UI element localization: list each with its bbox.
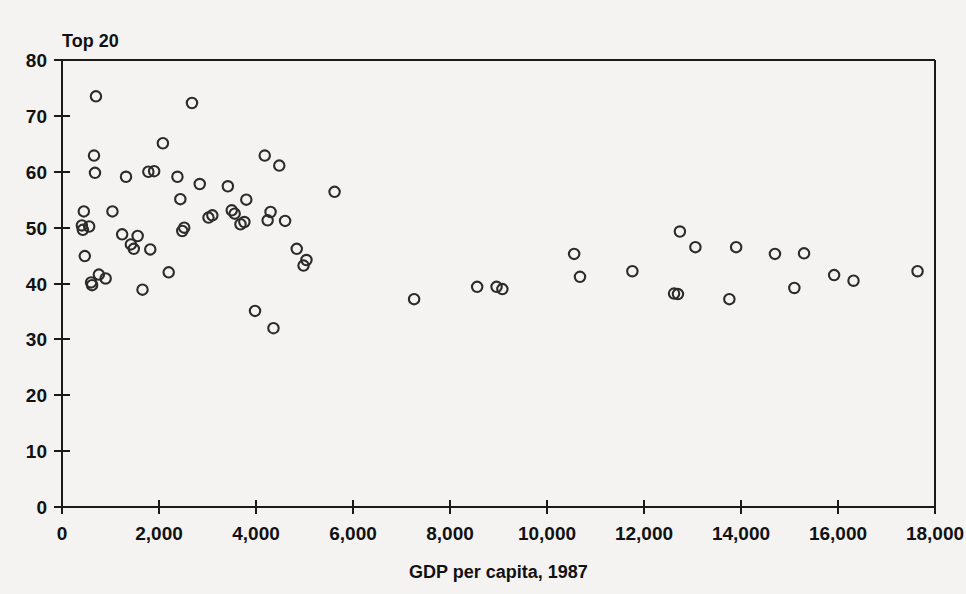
x-tick-label: 0 bbox=[57, 523, 68, 544]
data-point bbox=[799, 248, 809, 258]
data-point bbox=[724, 294, 734, 304]
x-tick-label: 16,000 bbox=[809, 523, 867, 544]
scatter-plot: 02,0004,0006,0008,00010,00012,00014,0001… bbox=[0, 0, 966, 594]
data-point bbox=[770, 249, 780, 259]
data-point bbox=[89, 150, 99, 160]
data-point bbox=[912, 266, 922, 276]
data-point bbox=[164, 267, 174, 277]
x-axis-title: GDP per capita, 1987 bbox=[409, 562, 588, 582]
data-point bbox=[241, 194, 251, 204]
data-point bbox=[260, 150, 270, 160]
data-point bbox=[175, 194, 185, 204]
x-tick-label: 18,000 bbox=[906, 523, 964, 544]
data-point bbox=[280, 216, 290, 226]
data-point bbox=[223, 181, 233, 191]
data-point bbox=[90, 168, 100, 178]
y-tick-label: 40 bbox=[26, 274, 47, 295]
data-point bbox=[250, 306, 260, 316]
x-tick-label: 6,000 bbox=[329, 523, 377, 544]
y-tick-label: 20 bbox=[26, 385, 47, 406]
x-tick-label: 10,000 bbox=[518, 523, 576, 544]
data-point bbox=[472, 282, 482, 292]
x-tick-label: 12,000 bbox=[615, 523, 673, 544]
data-point bbox=[179, 222, 189, 232]
data-point bbox=[91, 91, 101, 101]
plot-frame bbox=[62, 60, 935, 507]
x-tick-label: 2,000 bbox=[135, 523, 183, 544]
data-points bbox=[77, 91, 923, 333]
y-tick-label: 80 bbox=[26, 50, 47, 71]
data-point bbox=[789, 283, 799, 293]
x-tick-label: 4,000 bbox=[232, 523, 280, 544]
data-point bbox=[829, 270, 839, 280]
data-point bbox=[731, 242, 741, 252]
y-tick-label: 10 bbox=[26, 441, 47, 462]
data-point bbox=[268, 323, 278, 333]
x-tick-label: 8,000 bbox=[426, 523, 474, 544]
y-tick-label: 50 bbox=[26, 218, 47, 239]
data-point bbox=[274, 160, 284, 170]
data-point bbox=[848, 276, 858, 286]
data-point bbox=[172, 172, 182, 182]
data-point bbox=[195, 179, 205, 189]
data-point bbox=[627, 266, 637, 276]
data-point bbox=[107, 206, 117, 216]
chart-title: Top 20 bbox=[62, 31, 119, 51]
x-tick-label: 14,000 bbox=[712, 523, 770, 544]
data-point bbox=[569, 249, 579, 259]
chart-figure: 02,0004,0006,0008,00010,00012,00014,0001… bbox=[0, 0, 966, 594]
data-point bbox=[121, 172, 131, 182]
y-tick-label: 70 bbox=[26, 106, 47, 127]
data-point bbox=[117, 229, 127, 239]
data-point bbox=[187, 98, 197, 108]
data-point bbox=[79, 206, 89, 216]
y-tick-label: 30 bbox=[26, 329, 47, 350]
data-point bbox=[575, 272, 585, 282]
data-point bbox=[132, 231, 142, 241]
data-point bbox=[690, 242, 700, 252]
y-tick-label: 60 bbox=[26, 162, 47, 183]
data-point bbox=[137, 284, 147, 294]
data-point bbox=[145, 244, 155, 254]
data-point bbox=[80, 251, 90, 261]
y-axis-ticks: 01020304050607080 bbox=[26, 50, 70, 518]
data-point bbox=[329, 187, 339, 197]
y-tick-label: 0 bbox=[36, 497, 47, 518]
data-point bbox=[158, 138, 168, 148]
data-point bbox=[409, 294, 419, 304]
data-point bbox=[292, 244, 302, 254]
data-point bbox=[675, 226, 685, 236]
